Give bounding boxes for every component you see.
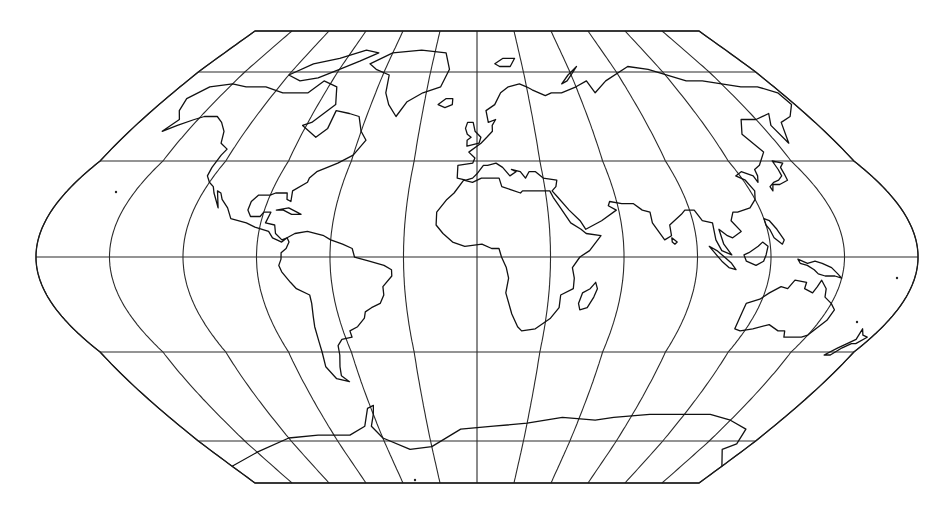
coastline-cuba <box>276 208 301 214</box>
coastline-svalbard <box>495 58 515 66</box>
coastline-madagascar <box>579 282 598 310</box>
coastline-british-isles <box>466 122 481 146</box>
coastline-south-america <box>279 231 392 381</box>
coastline-sumatra <box>709 246 736 269</box>
coastline-new-guinea <box>798 259 842 278</box>
world-map: World map — pseudocylindrical projection… <box>0 0 939 509</box>
coastlines <box>115 50 898 481</box>
coastline-antarctica <box>232 405 746 466</box>
coastline-japan <box>770 161 788 191</box>
island-dot <box>856 321 858 323</box>
coastline-australia <box>735 280 835 337</box>
coastline-philippines <box>764 219 784 245</box>
coastline-new-zealand <box>824 329 867 355</box>
island-dot <box>896 277 898 279</box>
coastline-arctic-islands <box>289 50 379 81</box>
map-canvas <box>0 0 939 509</box>
coastline-africa <box>436 178 601 331</box>
coastline-greenland <box>370 50 450 116</box>
coastline-iceland <box>438 99 453 108</box>
island-dot <box>115 191 117 193</box>
coastline-borneo <box>744 242 768 265</box>
island-dot <box>414 479 416 481</box>
coastline-sri-lanka <box>672 238 677 244</box>
